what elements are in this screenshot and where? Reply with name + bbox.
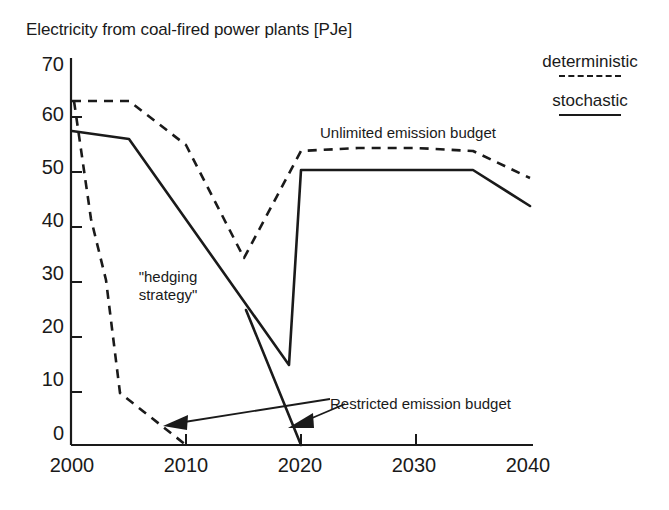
annotation-arrow-right <box>288 404 345 428</box>
chart-figure: Electricity from coal-fired power plants… <box>0 0 669 510</box>
plot-area <box>0 0 669 510</box>
series-stochastic-unlimited-curve <box>72 131 530 365</box>
series-stochastic-restricted-curve <box>246 310 301 445</box>
series-deterministic-restricted-curve <box>74 101 186 445</box>
y-axis-ticks <box>71 117 82 392</box>
